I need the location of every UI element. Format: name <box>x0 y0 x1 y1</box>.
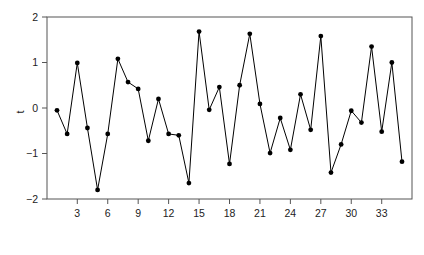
data-point <box>268 151 273 156</box>
data-point <box>166 132 171 137</box>
data-point <box>176 133 181 138</box>
data-point <box>156 97 161 102</box>
y-tick-label: 0 <box>32 102 38 114</box>
x-tick-label: 24 <box>285 207 297 219</box>
data-point <box>227 162 232 167</box>
data-point <box>95 188 100 193</box>
data-point <box>217 85 222 90</box>
x-tick-label: 30 <box>345 207 357 219</box>
data-point <box>146 138 151 143</box>
data-point <box>115 56 120 61</box>
y-axis-label: t <box>14 110 26 113</box>
data-point <box>288 147 293 152</box>
data-point <box>55 108 60 113</box>
data-point <box>339 142 344 147</box>
data-point <box>187 181 192 186</box>
data-point <box>329 170 334 175</box>
y-tick-label: −1 <box>26 147 38 159</box>
x-tick-label: 33 <box>376 207 388 219</box>
data-point <box>318 34 323 39</box>
data-point <box>379 129 384 134</box>
x-tick-label: 18 <box>224 207 236 219</box>
x-tick-label: 9 <box>135 207 141 219</box>
data-point <box>369 44 374 49</box>
data-point <box>126 80 131 85</box>
x-tick-label: 27 <box>315 207 327 219</box>
x-tick-label: 15 <box>193 207 205 219</box>
x-tick-label: 21 <box>254 207 266 219</box>
chart-background <box>0 0 424 255</box>
chart-figure: −2−1012 3691215182124273033 t <box>0 0 424 255</box>
x-tick-label: 3 <box>74 207 80 219</box>
data-point <box>65 132 70 137</box>
y-tick-label: −2 <box>26 193 38 205</box>
data-point <box>278 116 283 121</box>
data-point <box>85 126 90 131</box>
data-point <box>197 29 202 34</box>
data-point <box>359 120 364 125</box>
y-tick-label: 1 <box>32 56 38 68</box>
data-point <box>247 31 252 36</box>
y-tick-label: 2 <box>32 11 38 23</box>
data-point <box>298 92 303 97</box>
time-series-line-chart: −2−1012 3691215182124273033 t <box>0 0 424 255</box>
data-point <box>258 102 263 107</box>
data-point <box>389 60 394 65</box>
data-point <box>207 107 212 112</box>
data-point <box>75 61 80 66</box>
data-point <box>136 86 141 91</box>
data-point <box>349 108 354 113</box>
data-point <box>400 159 405 164</box>
x-tick-label: 6 <box>105 207 111 219</box>
data-point <box>105 132 110 137</box>
x-tick-label: 12 <box>163 207 175 219</box>
data-point <box>237 83 242 88</box>
data-point <box>308 127 313 132</box>
